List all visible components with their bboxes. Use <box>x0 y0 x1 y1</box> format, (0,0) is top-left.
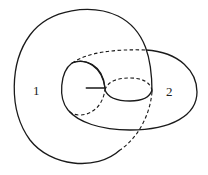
inner-ellipse-solid <box>105 90 152 101</box>
region-label-1: 1 <box>33 83 40 98</box>
inner-circle-left-solid <box>62 63 72 110</box>
inner-circle-solid <box>72 62 105 88</box>
inner-circle-hidden <box>68 88 105 115</box>
inner-circle-top-solid <box>72 61 105 88</box>
inner-ellipse-hidden <box>105 78 152 90</box>
region-label-2: 2 <box>166 84 173 99</box>
diagram-svg: 1 2 <box>0 0 208 175</box>
diagram-canvas: 1 2 <box>0 0 208 175</box>
